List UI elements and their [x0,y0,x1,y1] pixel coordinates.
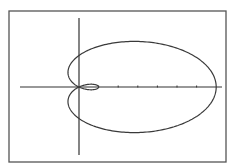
polar-plot [0,0,230,167]
